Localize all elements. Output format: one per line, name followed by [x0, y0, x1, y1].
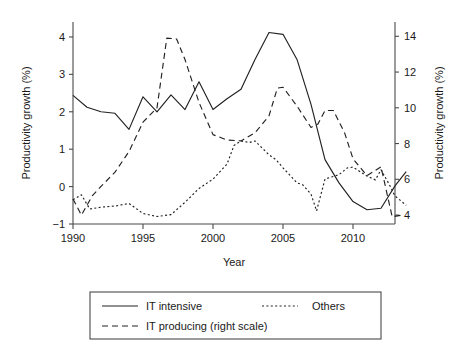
x-tick-label: 1995 [131, 232, 155, 244]
left-tick-label: 0 [59, 181, 65, 193]
x-tick-label: 2000 [201, 232, 225, 244]
left-tick-label: 3 [59, 68, 65, 80]
right-tick-label: 4 [404, 209, 410, 221]
series-line-others [73, 141, 406, 217]
chart-legend: IT intensive Others IT producing (right … [90, 292, 381, 339]
series-line-it-producing [73, 38, 402, 217]
left-tick-label: 2 [59, 106, 65, 118]
right-tick-label: 6 [404, 173, 410, 185]
legend-label-others: Others [312, 300, 346, 312]
left-tick-label: −1 [52, 218, 65, 230]
right-tick-label: 8 [404, 138, 410, 150]
right-tick-label: 10 [404, 102, 416, 114]
legend-label-it-intensive: IT intensive [146, 300, 202, 312]
x-axis-ticks: 19901995200020052010 [61, 224, 365, 244]
x-tick-label: 2005 [271, 232, 295, 244]
left-tick-label: 1 [59, 143, 65, 155]
right-tick-label: 14 [404, 30, 416, 42]
x-axis-title: Year [223, 256, 246, 268]
right-tick-label: 12 [404, 66, 416, 78]
series-group [73, 32, 406, 216]
x-tick-label: 1990 [61, 232, 85, 244]
right-axis-ticks: 468101214 [395, 30, 416, 221]
left-axis-title: Productivity growth (%) [20, 66, 32, 179]
left-axis-ticks: −101234 [52, 31, 73, 230]
series-line-it-intensive [73, 32, 406, 209]
legend-label-it-producing: IT producing (right scale) [146, 320, 267, 332]
x-tick-label: 2010 [341, 232, 365, 244]
left-tick-label: 4 [59, 31, 65, 43]
right-axis-title: Productivity growth (%) [433, 66, 445, 179]
productivity-growth-chart: −101234 468101214 19901995200020052010 P… [0, 0, 471, 350]
figure-container: −101234 468101214 19901995200020052010 P… [0, 0, 471, 350]
